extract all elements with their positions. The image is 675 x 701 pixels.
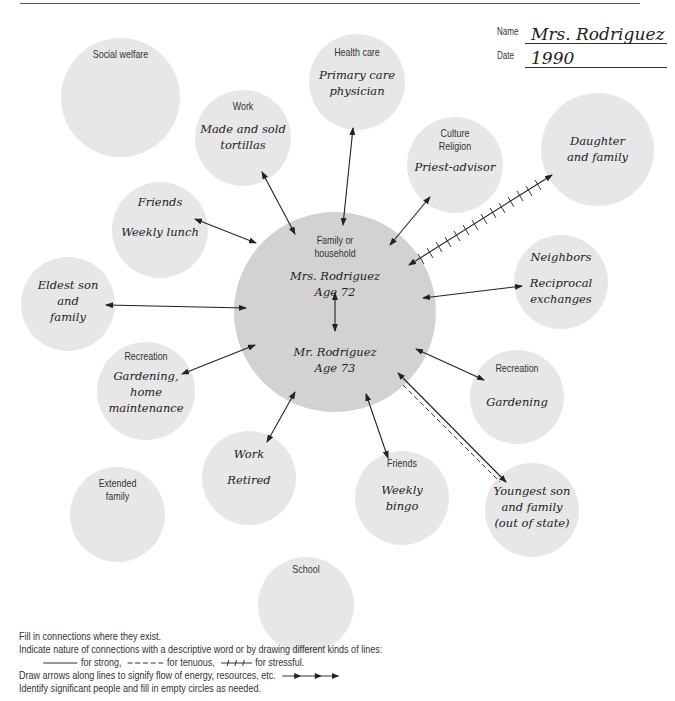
instruction-line: Indicate nature of connections with a de…: [19, 643, 655, 656]
connection-eldest-son: [106, 305, 246, 308]
connection-friends-bingo: [366, 394, 388, 458]
connection-youngest-son-tenuous: [403, 385, 500, 482]
arrows-sample: [282, 672, 339, 680]
connection-recreation-home: [182, 345, 255, 374]
stressful-ticks: [418, 180, 541, 264]
connection-neighbors: [423, 286, 522, 298]
strong-line-sample: [43, 660, 77, 666]
instruction-line: Identify significant people and fill in …: [19, 682, 655, 695]
legend-tenuous-label: for tenuous,: [167, 656, 215, 668]
instruction-line: Fill in connections where they exist.: [19, 630, 655, 643]
legend-stressful-label: for stressful.: [255, 656, 304, 668]
legend-strong-label: for strong,: [81, 656, 122, 668]
line-legend: for strong, for tenuous, for stressful.: [19, 656, 655, 669]
instructions: Fill in connections where they exist. In…: [19, 630, 655, 695]
stressful-line-sample: [221, 659, 252, 667]
connection-lines: [0, 0, 675, 701]
connection-friends-lunch: [195, 219, 256, 243]
connection-daughter: [409, 175, 552, 265]
connection-work-past: [262, 172, 295, 234]
tenuous-line-sample: [128, 660, 164, 666]
instruction-arrows-text: Draw arrows along lines to signify flow …: [19, 669, 276, 681]
connection-culture-religion: [390, 197, 430, 245]
connection-work-retired: [267, 392, 295, 442]
connection-youngest-son-strong: [398, 373, 506, 482]
connection-health-care: [343, 128, 353, 225]
instruction-line: Draw arrows along lines to signify flow …: [19, 669, 655, 682]
connection-recreation-garden: [416, 349, 484, 380]
